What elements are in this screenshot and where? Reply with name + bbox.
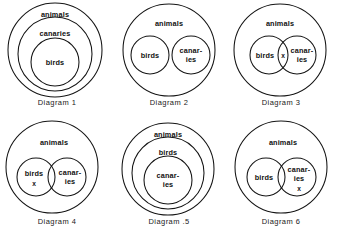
label-birds: birds — [255, 173, 274, 182]
label-canaries-line2: ies — [65, 177, 76, 186]
diagram-4: animals birds x canar- ies Diagram 4 — [0, 119, 114, 239]
x-mark-birds-only: x — [32, 180, 36, 187]
label-birds: birds — [159, 148, 178, 157]
label-animals: animals — [154, 130, 182, 139]
diagram-3-caption: Diagram 3 — [224, 98, 338, 107]
x-mark-intersection: x — [281, 52, 285, 59]
label-animals: animals — [269, 138, 297, 147]
diagram-1: animals canaries birds Diagram 1 — [0, 0, 114, 120]
label-canaries-line1: canar- — [291, 46, 314, 55]
diagram-5: animals birds canar- ies Diagram .5 — [112, 119, 226, 239]
label-birds: birds — [256, 51, 275, 60]
diagram-2: animals birds canar- ies Diagram 2 — [112, 0, 226, 120]
diagram-1-canvas: animals canaries birds — [0, 0, 114, 102]
diagram-3-canvas: animals birds canar- ies x — [224, 0, 338, 102]
diagram-2-canvas: animals birds canar- ies — [112, 0, 226, 102]
label-animals: animals — [155, 19, 183, 28]
diagram-6-caption: Diagram 6 — [224, 217, 338, 226]
label-canaries-line2: ies — [186, 55, 197, 64]
label-canaries-line1: canar- — [59, 168, 82, 177]
label-canaries-line1: canar- — [180, 46, 203, 55]
x-mark-canaries-only: x — [297, 185, 301, 192]
label-canaries-line1: canar- — [288, 165, 311, 174]
label-animals: animals — [41, 10, 69, 19]
label-canaries-line2: ies — [294, 174, 305, 183]
diagram-2-caption: Diagram 2 — [112, 98, 226, 107]
diagram-6: animals birds canar- ies x Diagram 6 — [224, 119, 338, 239]
label-canaries-line2: ies — [163, 180, 174, 189]
label-birds: birds — [141, 51, 160, 60]
diagram-5-caption: Diagram .5 — [112, 217, 226, 226]
diagram-4-caption: Diagram 4 — [0, 217, 114, 226]
diagram-1-caption: Diagram 1 — [0, 98, 114, 107]
label-animals: animals — [40, 138, 68, 147]
label-canaries: canaries — [40, 29, 71, 38]
label-canaries-line2: ies — [297, 55, 308, 64]
diagram-4-canvas: animals birds x canar- ies — [0, 119, 114, 221]
label-canaries-line1: canar- — [157, 171, 180, 180]
label-animals: animals — [266, 19, 294, 28]
euler-diagram-figure: animals canaries birds Diagram 1 animals… — [0, 0, 342, 240]
label-birds: birds — [46, 58, 65, 67]
label-birds: birds — [25, 169, 44, 178]
diagram-5-canvas: animals birds canar- ies — [112, 119, 226, 221]
diagram-6-canvas: animals birds canar- ies x — [224, 119, 338, 221]
diagram-3: animals birds canar- ies x Diagram 3 — [224, 0, 338, 120]
